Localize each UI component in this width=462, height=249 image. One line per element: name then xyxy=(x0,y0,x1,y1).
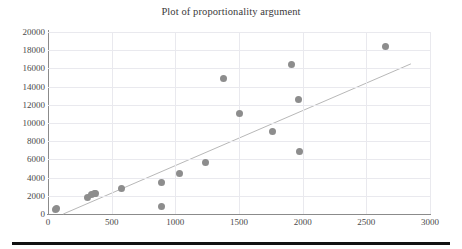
gridline-vertical xyxy=(112,32,113,214)
x-tick-label: 0 xyxy=(23,217,73,227)
data-point xyxy=(118,185,125,192)
x-tick-label: 3000 xyxy=(405,217,455,227)
data-point xyxy=(92,190,99,197)
scatter-chart: Plot of proportionality argument 0200040… xyxy=(0,0,462,249)
data-point xyxy=(269,128,276,135)
x-tick-label: 1000 xyxy=(150,217,200,227)
x-tick-label: 1500 xyxy=(214,217,264,227)
y-tick-label: 20000 xyxy=(1,28,45,37)
x-tick-label: 2000 xyxy=(278,217,328,227)
data-point xyxy=(382,43,389,50)
data-point xyxy=(236,110,243,117)
plot-area xyxy=(48,32,430,214)
y-tick-label: 2000 xyxy=(1,192,45,201)
y-tick-label: 14000 xyxy=(1,83,45,92)
y-tick-label: 4000 xyxy=(1,174,45,183)
gridline-vertical xyxy=(366,32,367,214)
x-tick-label: 500 xyxy=(87,217,137,227)
data-point xyxy=(220,75,227,82)
y-axis-tick-labels: 0200040006000800010000120001400016000180… xyxy=(0,0,45,249)
bottom-rule xyxy=(12,242,450,245)
y-tick-label: 10000 xyxy=(1,119,45,128)
data-point xyxy=(176,170,183,177)
chart-title: Plot of proportionality argument xyxy=(0,6,462,17)
data-point xyxy=(158,179,165,186)
y-tick-label: 12000 xyxy=(1,101,45,110)
y-tick-label: 18000 xyxy=(1,46,45,55)
gridline-vertical xyxy=(303,32,304,214)
x-tick-label: 2500 xyxy=(341,217,391,227)
gridline-vertical xyxy=(175,32,176,214)
y-tick-label: 8000 xyxy=(1,137,45,146)
gridline-vertical xyxy=(430,32,431,214)
x-axis-line xyxy=(47,214,431,215)
y-tick-label: 6000 xyxy=(1,155,45,164)
gridline-vertical xyxy=(239,32,240,214)
y-tick-label: 16000 xyxy=(1,64,45,73)
data-point xyxy=(296,148,303,155)
